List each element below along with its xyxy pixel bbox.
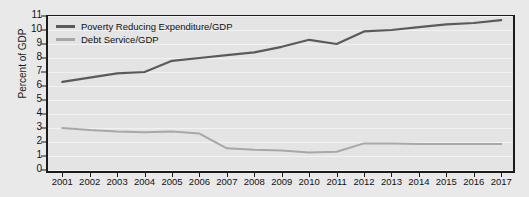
plot-area: Poverty Reducing Expenditure/GDPDebt Ser… [46, 15, 515, 173]
x-tick-label: 2005 [161, 176, 182, 187]
x-tick-label: 2016 [463, 176, 484, 187]
legend-label: Debt Service/GDP [81, 34, 159, 45]
legend-item: Poverty Reducing Expenditure/GDP [56, 20, 233, 33]
legend-swatch-icon [56, 38, 75, 41]
x-tick-label: 2010 [299, 176, 320, 187]
x-tick-label: 2008 [244, 176, 265, 187]
x-tick-label: 2011 [326, 176, 346, 187]
gridline [48, 170, 513, 171]
legend: Poverty Reducing Expenditure/GDPDebt Ser… [56, 20, 233, 46]
x-tick-label: 2013 [381, 176, 402, 187]
x-axis-tick-labels: 2001200220032004200520062007200820092010… [46, 176, 515, 190]
x-tick-label: 2001 [52, 176, 73, 187]
x-tick-label: 2014 [408, 176, 429, 187]
chart-figure: Percent of GDP 01234567891011 Poverty Re… [0, 0, 529, 197]
x-tick-label: 2009 [271, 176, 292, 187]
x-tick-label: 2015 [436, 176, 457, 187]
x-tick-label: 2002 [79, 176, 100, 187]
x-tick-label: 2003 [107, 176, 128, 187]
y-axis-tick-labels: 01234567891011 [22, 14, 42, 173]
series-line [62, 128, 501, 153]
legend-label: Poverty Reducing Expenditure/GDP [81, 21, 233, 32]
x-tick-label: 2012 [353, 176, 374, 187]
x-tick-label: 2004 [134, 176, 155, 187]
x-tick-label: 2006 [189, 176, 210, 187]
legend-swatch-icon [56, 25, 75, 28]
legend-item: Debt Service/GDP [56, 33, 233, 46]
x-tick-label: 2017 [491, 176, 512, 187]
x-tick-label: 2007 [216, 176, 237, 187]
